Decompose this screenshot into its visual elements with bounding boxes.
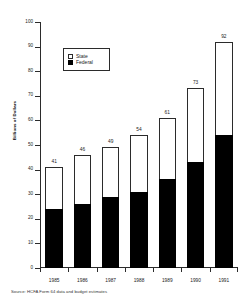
y-axis-tick — [35, 47, 41, 48]
y-axis-tick — [35, 96, 41, 97]
y-axis-tick — [35, 22, 41, 23]
y-axis-tick-label: 70 — [16, 93, 33, 98]
x-axis-label-1990: 1990 — [181, 278, 211, 283]
bar-segment-federal-1987 — [102, 197, 120, 268]
bar-value-label-1986: 46 — [67, 148, 97, 153]
y-axis-tick — [35, 120, 41, 121]
bar-segment-federal-1990 — [187, 162, 205, 268]
x-axis-tick — [181, 267, 182, 272]
legend-item-state: State — [68, 54, 106, 59]
y-axis-tick-label: 90 — [16, 44, 33, 49]
y-axis-tick-label: 60 — [16, 118, 33, 123]
y-axis-tick — [35, 145, 41, 146]
legend-label-state: State — [76, 54, 88, 59]
y-axis-tick — [35, 219, 41, 220]
x-axis-tick — [125, 267, 126, 272]
x-axis-label-1985: 1985 — [39, 278, 69, 283]
bar-value-label-1987: 49 — [96, 140, 126, 145]
bar-1988 — [130, 135, 148, 268]
y-axis-tick-label: 10 — [16, 241, 33, 246]
bar-1987 — [102, 147, 120, 268]
y-axis-tick-label: 100 — [16, 20, 33, 25]
bar-value-label-1989: 61 — [152, 111, 182, 116]
bar-segment-federal-1986 — [74, 204, 92, 268]
bar-segment-federal-1985 — [45, 209, 63, 268]
chart-figure: Billions of Dollars 01020304050607080901… — [0, 0, 250, 305]
y-axis-tick — [35, 194, 41, 195]
bar-value-label-1985: 41 — [39, 160, 69, 165]
chart-legend: State Federal — [63, 48, 110, 71]
bar-1990 — [187, 88, 205, 268]
x-axis-tick — [153, 267, 154, 272]
y-axis-tick — [35, 71, 41, 72]
x-axis-tick — [68, 267, 69, 272]
y-axis-tick-label: 40 — [16, 167, 33, 172]
bar-segment-federal-1989 — [159, 179, 177, 268]
bar-1989 — [159, 118, 177, 268]
y-axis-tick-label: 30 — [16, 192, 33, 197]
x-axis-label-1989: 1989 — [152, 278, 182, 283]
x-axis-label-1986: 1986 — [67, 278, 97, 283]
x-axis-label-1988: 1988 — [124, 278, 154, 283]
legend-swatch-federal-icon — [68, 60, 73, 65]
x-axis-label-1991: 1991 — [209, 278, 239, 283]
x-axis-tick — [40, 267, 41, 272]
x-axis-tick — [97, 267, 98, 272]
legend-label-federal: Federal — [76, 60, 93, 65]
y-axis-tick-label: 50 — [16, 143, 33, 148]
x-axis-tick — [237, 267, 238, 272]
source-note: Source: HCFA Form 64 data and budget est… — [11, 289, 107, 294]
x-axis-label-1987: 1987 — [96, 278, 126, 283]
bar-1986 — [74, 155, 92, 268]
x-axis-tick — [210, 267, 211, 272]
y-axis-tick — [35, 243, 41, 244]
bar-segment-federal-1991 — [215, 135, 233, 268]
legend-item-federal: Federal — [68, 60, 106, 65]
legend-swatch-state-icon — [68, 54, 73, 59]
y-axis-tick-label: 20 — [16, 216, 33, 221]
y-axis-tick-label: 0 — [16, 266, 33, 271]
bar-value-label-1988: 54 — [124, 128, 154, 133]
bar-value-label-1990: 73 — [181, 81, 211, 86]
bar-1985 — [45, 167, 63, 268]
y-axis-tick-label: 80 — [16, 69, 33, 74]
bar-value-label-1991: 92 — [209, 35, 239, 40]
bar-1991 — [215, 42, 233, 268]
y-axis-tick — [35, 170, 41, 171]
bar-segment-federal-1988 — [130, 192, 148, 268]
